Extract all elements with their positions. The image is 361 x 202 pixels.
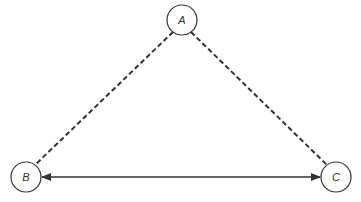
node-b: B — [11, 162, 41, 192]
node-a-label: A — [177, 14, 185, 26]
node-a: A — [167, 5, 197, 35]
edge-a-c — [191, 32, 327, 165]
node-c-label: C — [332, 171, 340, 183]
triangle-diagram: A B C — [0, 0, 361, 202]
node-c: C — [321, 162, 351, 192]
edge-a-b — [35, 32, 173, 165]
node-b-label: B — [22, 171, 29, 183]
